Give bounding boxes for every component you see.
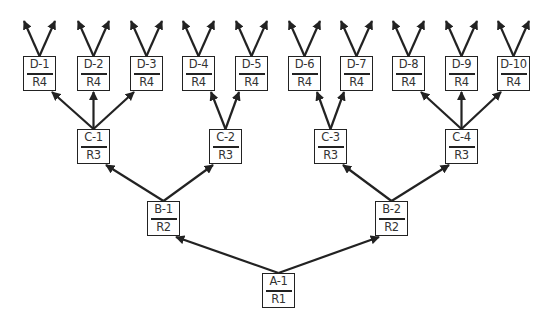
- node-sublabel: R3: [218, 150, 233, 162]
- node-d-1: D-1R4: [23, 56, 56, 91]
- node-sublabel: R4: [454, 77, 469, 89]
- node-d-3: D-3R4: [130, 56, 163, 91]
- arrow-c-3-to-d-6: [317, 92, 331, 129]
- node-label: A-1: [269, 276, 287, 290]
- node-sublabel: R4: [32, 77, 47, 89]
- node-d-6: D-6R4: [288, 56, 321, 91]
- node-c-2: C-2R3: [209, 129, 242, 164]
- node-a-1: A-1R1: [262, 273, 295, 308]
- arrow-d-3-out-right: [147, 21, 163, 56]
- node-sublabel: R4: [244, 77, 259, 89]
- arrow-d-9-out-left: [446, 21, 462, 56]
- node-label: D-3: [137, 59, 156, 73]
- arrow-b-1-to-c-1: [106, 165, 164, 201]
- arrow-a-1-to-b-1: [176, 237, 279, 273]
- arrow-d-10-out-left: [498, 21, 514, 56]
- arrow-d-2-out-left: [78, 21, 94, 56]
- node-label: C-3: [321, 132, 340, 146]
- arrow-b-2-to-c-3: [343, 165, 392, 201]
- node-sublabel: R4: [139, 77, 154, 89]
- arrow-d-6-out-right: [305, 21, 321, 56]
- arrow-d-8-out-left: [393, 21, 409, 56]
- arrow-d-3-out-left: [131, 21, 147, 56]
- node-d-4: D-4R4: [182, 56, 215, 91]
- node-sublabel: R4: [86, 77, 101, 89]
- arrow-c-3-to-d-7: [331, 92, 345, 129]
- node-sublabel: R4: [297, 77, 312, 89]
- arrow-c-2-to-d-5: [226, 92, 240, 129]
- node-label: D-4: [189, 59, 208, 73]
- node-label: D-10: [500, 59, 526, 73]
- node-sublabel: R2: [156, 222, 171, 234]
- node-d-7: D-7R4: [340, 56, 373, 91]
- node-sublabel: R4: [349, 77, 364, 89]
- arrow-d-6-out-left: [289, 21, 305, 56]
- arrow-d-1-out-left: [24, 21, 40, 56]
- node-sublabel: R3: [323, 150, 338, 162]
- node-d-10: D-10R4: [497, 56, 530, 91]
- node-label: D-2: [84, 59, 103, 73]
- node-label: C-1: [84, 132, 103, 146]
- arrow-b-2-to-c-4: [392, 165, 450, 201]
- arrow-c-2-to-d-4: [211, 92, 226, 129]
- node-c-4: C-4R3: [445, 129, 478, 164]
- arrow-c-1-to-d-1: [52, 92, 94, 129]
- node-sublabel: R4: [191, 77, 206, 89]
- node-label: D-9: [452, 59, 471, 73]
- arrow-d-9-out-right: [462, 21, 478, 56]
- node-sublabel: R1: [271, 294, 286, 306]
- node-b-2: B-2R2: [375, 201, 408, 236]
- node-label: D-7: [347, 59, 366, 73]
- node-label: D-5: [242, 59, 261, 73]
- node-label: D-6: [295, 59, 314, 73]
- arrow-c-4-to-d-8: [421, 92, 462, 129]
- arrow-b-1-to-c-2: [164, 165, 214, 201]
- node-d-8: D-8R4: [392, 56, 425, 91]
- node-d-9: D-9R4: [445, 56, 478, 91]
- arrow-d-7-out-left: [341, 21, 357, 56]
- arrow-d-7-out-right: [357, 21, 373, 56]
- node-label: C-4: [452, 132, 471, 146]
- arrow-c-1-to-d-3: [94, 92, 135, 129]
- arrow-d-4-out-right: [199, 21, 215, 56]
- arrow-d-8-out-right: [409, 21, 425, 56]
- node-b-1: B-1R2: [147, 201, 180, 236]
- node-sublabel: R4: [506, 77, 521, 89]
- node-label: B-2: [382, 204, 400, 218]
- node-sublabel: R3: [86, 150, 101, 162]
- node-label: D-1: [30, 59, 49, 73]
- node-c-1: C-1R3: [77, 129, 110, 164]
- node-sublabel: R3: [454, 150, 469, 162]
- node-d-5: D-5R4: [235, 56, 268, 91]
- arrow-d-1-out-right: [40, 21, 56, 56]
- arrow-d-10-out-right: [514, 21, 530, 56]
- arrow-d-5-out-right: [252, 21, 268, 56]
- node-d-2: D-2R4: [77, 56, 110, 91]
- node-label: B-1: [154, 204, 172, 218]
- arrow-c-4-to-d-10: [462, 92, 502, 129]
- arrow-d-4-out-left: [183, 21, 199, 56]
- node-label: C-2: [216, 132, 235, 146]
- node-sublabel: R2: [384, 222, 399, 234]
- arrow-a-1-to-b-2: [279, 237, 380, 273]
- node-label: D-8: [399, 59, 418, 73]
- node-sublabel: R4: [401, 77, 416, 89]
- arrow-d-2-out-right: [94, 21, 110, 56]
- node-c-3: C-3R3: [314, 129, 347, 164]
- arrow-d-5-out-left: [236, 21, 252, 56]
